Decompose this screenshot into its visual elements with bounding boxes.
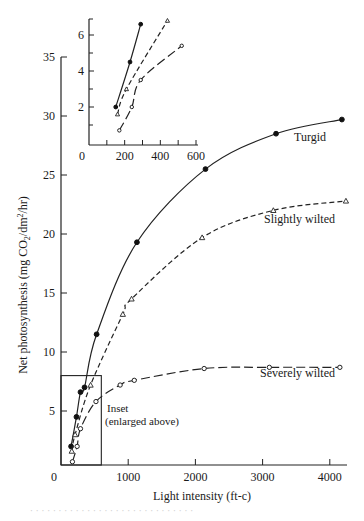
y-tick-label: 20 bbox=[43, 227, 55, 241]
x-tick-label: 2000 bbox=[183, 470, 207, 484]
marker-open-circle-icon bbox=[139, 78, 142, 81]
y-axis-label: Net photosynthesis (mg CO2/dm2/hr) bbox=[16, 196, 32, 374]
series-label-slightly-wilted: Slightly wilted bbox=[264, 212, 335, 226]
marker-open-circle-icon bbox=[70, 460, 74, 464]
y-tick-label: 15 bbox=[43, 286, 55, 300]
inset-region-box bbox=[61, 376, 101, 465]
inset-x-tick-label: 400 bbox=[151, 149, 169, 163]
marker-open-circle-icon bbox=[94, 399, 98, 403]
y-tick-label: 25 bbox=[43, 168, 55, 182]
inset-x-tick-label: 0 bbox=[79, 149, 85, 163]
marker-open-circle-icon bbox=[180, 44, 183, 47]
marker-filled-circle-icon bbox=[203, 167, 208, 172]
marker-filled-circle-icon bbox=[339, 117, 344, 122]
photosynthesis-chart: 510152025303501000200030004000 246020040… bbox=[0, 0, 364, 521]
inset-annotation-line1: Inset bbox=[107, 402, 128, 414]
x-tick-label: 4000 bbox=[318, 470, 342, 484]
marker-filled-circle-icon bbox=[128, 60, 132, 64]
x-axis-label: Light intensity (ft-c) bbox=[153, 489, 251, 503]
marker-filled-circle-icon bbox=[139, 22, 143, 26]
marker-open-circle-icon bbox=[202, 366, 206, 370]
inset-annotation-line2: (enlarged above) bbox=[105, 415, 179, 428]
marker-filled-circle-icon bbox=[274, 131, 279, 136]
marker-filled-circle-icon bbox=[94, 332, 99, 337]
marker-filled-circle-icon bbox=[135, 240, 140, 245]
inset-x-tick-label: 200 bbox=[116, 149, 134, 163]
marker-open-circle-icon bbox=[118, 383, 122, 387]
y-tick-label: 35 bbox=[43, 50, 55, 64]
marker-open-triangle-icon bbox=[115, 112, 119, 116]
marker-open-triangle-icon bbox=[88, 382, 93, 387]
y-tick-label: 10 bbox=[43, 345, 55, 359]
marker-filled-circle-icon bbox=[114, 105, 118, 109]
inset-region-rect bbox=[61, 376, 101, 465]
inset-y-tick-label: 6 bbox=[78, 28, 84, 42]
marker-open-circle-icon bbox=[338, 365, 342, 369]
x-tick-label: 3000 bbox=[251, 470, 275, 484]
marker-open-triangle-icon bbox=[343, 198, 348, 203]
figure-caption: · · · · · · · · · · · · · · · · · · · · … bbox=[30, 506, 350, 516]
marker-open-triangle-icon bbox=[124, 87, 128, 91]
marker-open-triangle-icon bbox=[69, 448, 74, 453]
series-line-slightly-wilted bbox=[118, 21, 168, 115]
marker-open-triangle-icon bbox=[120, 312, 125, 317]
series-label-severely-wilted: Severely wilted bbox=[260, 366, 335, 380]
x-tick-label: 1000 bbox=[116, 470, 140, 484]
marker-filled-circle-icon bbox=[74, 415, 79, 420]
marker-open-circle-icon bbox=[130, 105, 133, 108]
marker-open-triangle-icon bbox=[165, 19, 169, 23]
x-tick-label: 0 bbox=[51, 470, 57, 484]
series-line-severely-wilted bbox=[119, 46, 181, 131]
series-label-turgid: Turgid bbox=[294, 130, 326, 144]
inset-y-tick-label: 2 bbox=[78, 100, 84, 114]
inset-series bbox=[114, 19, 184, 133]
series-line-turgid bbox=[116, 24, 141, 107]
marker-open-circle-icon bbox=[78, 427, 82, 431]
y-tick-label: 30 bbox=[43, 109, 55, 123]
marker-filled-circle-icon bbox=[82, 385, 87, 390]
marker-open-circle-icon bbox=[75, 444, 79, 448]
inset-y-tick-label: 4 bbox=[78, 64, 84, 78]
inset-axes: 2460200400600 bbox=[78, 19, 205, 163]
marker-open-circle-icon bbox=[118, 129, 121, 132]
marker-open-triangle-icon bbox=[199, 235, 204, 240]
marker-open-circle-icon bbox=[132, 378, 136, 382]
inset-x-tick-label: 600 bbox=[187, 149, 205, 163]
marker-filled-circle-icon bbox=[78, 390, 83, 395]
y-tick-label: 5 bbox=[49, 404, 55, 418]
